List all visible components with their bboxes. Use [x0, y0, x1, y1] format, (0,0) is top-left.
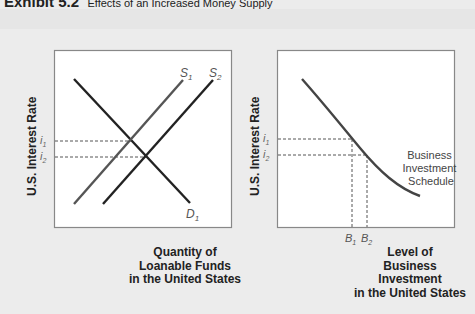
right-y-axis-label: U.S. Interest Rate — [248, 97, 262, 196]
business-investment-chart: Business Investment Schedule i1 i2 B1 B2 — [263, 51, 459, 247]
b2-label: B2 — [361, 232, 372, 246]
right-i1-label: i1 — [263, 132, 269, 146]
right-x-label-line: Business Investment — [350, 260, 470, 287]
left-plot-frame — [55, 51, 232, 228]
loanable-funds-chart: S1 S2 D1 i1 i2 — [40, 51, 232, 228]
left-y-axis-label: U.S. Interest Rate — [25, 97, 39, 196]
left-i1-label: i1 — [40, 134, 46, 148]
left-x-label-line: Loanable Funds — [125, 260, 245, 274]
left-x-label-line: Quantity of — [125, 246, 245, 260]
right-x-label-line: Level of — [350, 246, 470, 260]
curve-label: Business Investment Schedule — [403, 149, 460, 187]
left-x-axis-label: Quantity of Loanable Funds in the United… — [125, 246, 245, 287]
right-x-label-line: in the United States — [350, 287, 470, 301]
right-x-axis-label: Level of Business Investment in the Unit… — [350, 246, 470, 300]
b1-label: B1 — [345, 232, 356, 246]
left-i2-label: i2 — [40, 150, 46, 164]
left-x-label-line: in the United States — [125, 273, 245, 287]
right-i2-label: i2 — [263, 148, 269, 162]
